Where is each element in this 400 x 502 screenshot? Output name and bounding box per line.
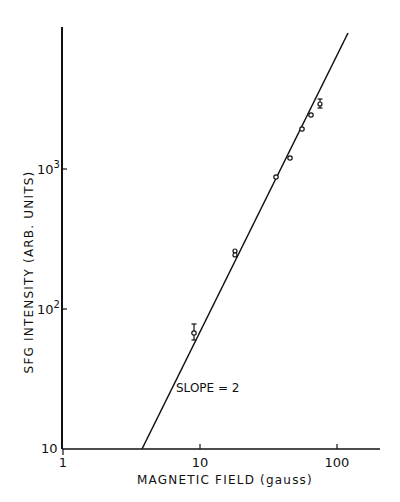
- y-axis-title: SFG INTENSITY (ARB. UNITS): [22, 171, 36, 374]
- data-point: [274, 175, 278, 179]
- y-tick-label-1000: 103: [37, 159, 60, 177]
- slope-annotation: SLOPE = 2: [176, 381, 239, 395]
- data-point: [309, 113, 313, 117]
- x-tick-label-100: 100: [325, 455, 350, 470]
- y-tick-label-10: 10: [41, 441, 58, 456]
- data-point: [192, 331, 196, 335]
- data-points: [192, 99, 323, 340]
- x-axis-title: MAGNETIC FIELD (gauss): [137, 473, 313, 487]
- x-tick-label-10: 10: [192, 455, 209, 470]
- chart: 10 102 103 1 10 100 MAGNETIC FIELD (gaus…: [0, 0, 400, 502]
- fit-line: [142, 33, 348, 449]
- data-point: [233, 253, 237, 257]
- x-tick-label-1: 1: [59, 455, 67, 470]
- data-point: [318, 102, 322, 106]
- y-tick-label-100: 102: [37, 299, 60, 317]
- data-point: [300, 127, 304, 131]
- data-point: [233, 249, 237, 253]
- data-point: [288, 156, 292, 160]
